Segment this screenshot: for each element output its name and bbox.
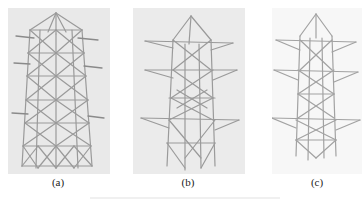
- panel-b: [133, 8, 245, 174]
- tower-b-image: [133, 8, 245, 174]
- tower-c-image: [272, 8, 362, 174]
- tower-a-image: [8, 8, 110, 174]
- panel-c: [272, 8, 362, 174]
- panel-a: [8, 8, 110, 174]
- figure-caption-clipped: [90, 194, 280, 200]
- panel-b-label: (b): [168, 176, 208, 188]
- panel-c-label: (c): [297, 176, 337, 188]
- panel-a-label: (a): [38, 176, 78, 188]
